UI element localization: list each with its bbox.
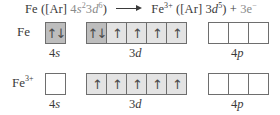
fe3plus-4s-orbitals (45, 73, 66, 95)
reaction-arrow-icon (116, 4, 142, 12)
orbital-box (249, 74, 268, 94)
reactant-symbol: Fe (25, 2, 38, 16)
product-core: ([Ar] (176, 2, 202, 16)
reactant-configuration: 4s23d6 (70, 2, 102, 16)
species-label-fe: Fe (17, 24, 30, 40)
fe3plus-3d-orbitals: ↑ ↑ ↑ ↑ ↑ (86, 73, 187, 95)
orbital-box: ↑ (147, 23, 167, 43)
species-label-fe3plus: Fe3+ (12, 75, 34, 91)
fe-4p-orbitals (208, 22, 269, 44)
label-3d: 3d (129, 97, 142, 112)
fe3plus-4p-orbitals (208, 73, 269, 95)
fe-4s-orbitals: ↑↓ (45, 22, 66, 44)
orbital-box: ↑ (107, 23, 127, 43)
orbital-box: ↑↓ (46, 23, 65, 43)
orbital-box (229, 74, 249, 94)
label-4s: 4s (49, 46, 60, 61)
orbital-box: ↑ (107, 74, 127, 94)
label-4s: 4s (49, 97, 60, 112)
label-4p: 4p (231, 97, 244, 112)
orbital-box: ↑ (127, 23, 147, 43)
orbital-box (249, 23, 268, 43)
plus-sign: + (230, 2, 237, 16)
orbital-box (229, 23, 249, 43)
label-4p: 4p (231, 46, 244, 61)
orbital-box: ↑ (147, 74, 167, 94)
label-3d: 3d (129, 46, 142, 61)
orbital-box: ↑ (87, 74, 107, 94)
fe-3d-orbitals: ↑↓ ↑ ↑ ↑ ↑ (86, 22, 187, 44)
product-symbol: Fe3+ (151, 2, 172, 16)
orbital-box: ↑ (167, 74, 186, 94)
electrons-released: 3e− (240, 2, 257, 16)
orbital-box: ↑ (127, 74, 147, 94)
orbital-box (209, 74, 229, 94)
orbital-box (209, 23, 229, 43)
orbital-box: ↑↓ (87, 23, 107, 43)
product-configuration: 3d5 (205, 2, 222, 16)
orbital-box (46, 74, 65, 94)
ionization-equation: Fe ([Ar] 4s23d6) Fe3+ ([Ar] 3d5) + 3e− (25, 2, 257, 17)
orbital-box: ↑ (167, 23, 186, 43)
reactant-core: ([Ar] (41, 2, 67, 16)
